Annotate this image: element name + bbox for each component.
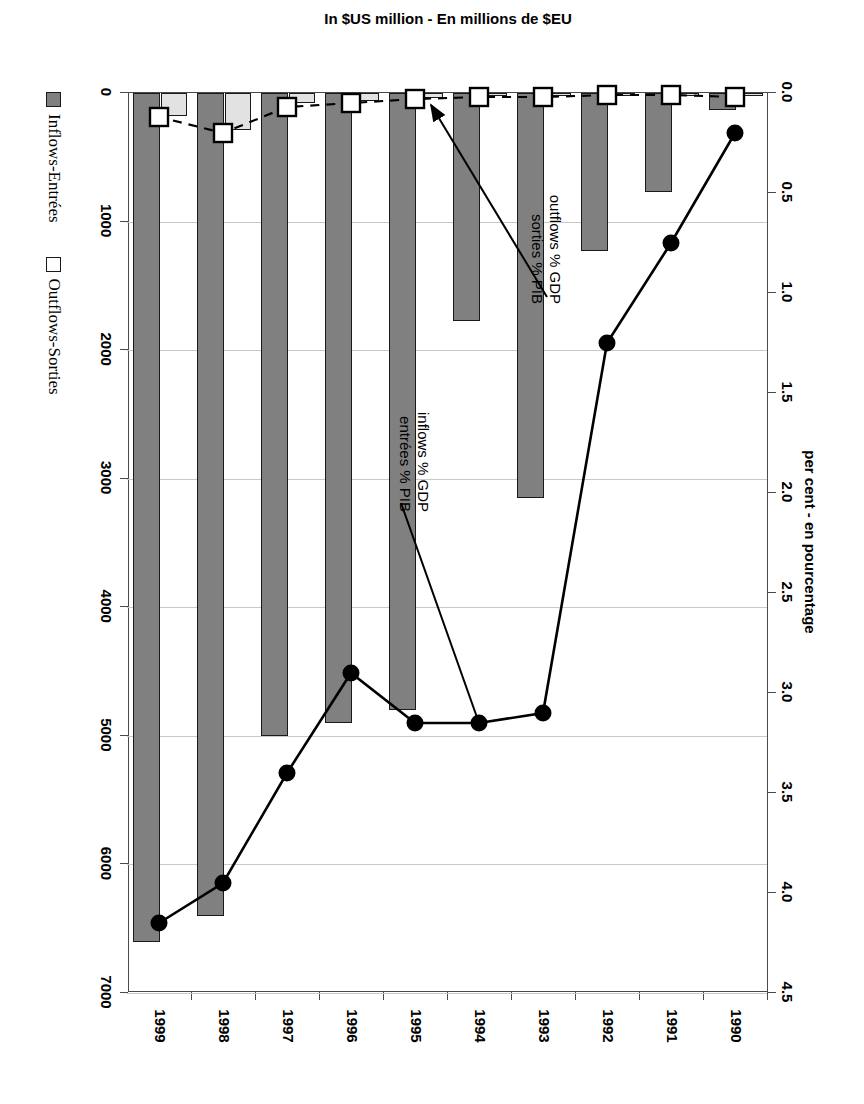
inflows-percent-marker — [215, 875, 232, 892]
outflows-annotation-line1: outflows % GDP — [546, 195, 564, 304]
inflows-annotation-line1: inflows % GDP — [414, 412, 432, 512]
y-axis-tick-label: 1000 — [98, 194, 115, 248]
y-axis-tick-label: 5000 — [98, 708, 115, 762]
secondary-axis-tick-label: 0.0 — [779, 82, 796, 103]
y-axis-tick-label: 4000 — [98, 579, 115, 633]
secondary-axis-tick-mark — [768, 392, 776, 393]
legend-swatch-outflows-icon — [47, 257, 62, 272]
secondary-axis-tick-mark — [768, 892, 776, 893]
outflows-percent-marker — [342, 94, 360, 112]
chart-figure: In $US million - En millions de $EU per … — [0, 0, 864, 1104]
inflows-percent-marker — [663, 235, 680, 252]
outflows-percent-line — [159, 95, 735, 133]
inflows-percent-marker — [599, 335, 616, 352]
inflows-annotation-leader — [401, 503, 479, 723]
inflows-percent-marker — [151, 915, 168, 932]
secondary-axis-tick-mark — [768, 692, 776, 693]
outflows-percent-marker — [662, 86, 680, 104]
legend-label-outflows: Outflows-Sorties — [44, 279, 64, 395]
inflows-percent-line — [159, 133, 735, 923]
legend-label-inflows: Inflows-Entrées — [44, 114, 64, 223]
secondary-axis-tick-mark — [768, 292, 776, 293]
category-tick-label: 1999 — [152, 1009, 169, 1042]
secondary-axis-tick-label: 2.0 — [779, 482, 796, 503]
y-axis-tick-label: 3000 — [98, 451, 115, 505]
outflows-percent-marker — [726, 88, 744, 106]
gridline — [127, 993, 767, 994]
secondary-axis-tick-mark — [768, 192, 776, 193]
category-tick-label: 1996 — [344, 1009, 361, 1042]
secondary-axis-tick-label: 3.0 — [779, 682, 796, 703]
secondary-axis-tick-label: 4.0 — [779, 882, 796, 903]
secondary-axis-tick-label: 2.5 — [779, 582, 796, 603]
secondary-axis-tick-mark — [768, 92, 776, 93]
outflows-percent-marker — [470, 88, 488, 106]
category-tick-label: 1998 — [216, 1009, 233, 1042]
secondary-axis-tick-mark — [768, 792, 776, 793]
category-tick-label: 1990 — [728, 1009, 745, 1042]
category-tick-label: 1992 — [600, 1009, 617, 1042]
plot-area — [128, 92, 768, 992]
inflows-percent-marker — [279, 765, 296, 782]
legend-swatch-inflows-icon — [47, 92, 62, 107]
legend-item-inflows: Inflows-Entrées — [44, 92, 64, 223]
secondary-axis-tick-mark — [768, 992, 776, 993]
secondary-axis-tick-label: 1.0 — [779, 282, 796, 303]
legend-item-outflows: Outflows-Sorties — [44, 257, 64, 395]
outflows-percent-marker — [150, 108, 168, 126]
outflows-percent-marker — [214, 124, 232, 142]
inflows-percent-marker — [407, 715, 424, 732]
outflows-annotation-line2: sorties % PIB — [528, 195, 546, 304]
secondary-axis-tick-mark — [768, 492, 776, 493]
outflows-percent-marker — [278, 98, 296, 116]
y-axis-title: In $US million - En millions de $EU — [324, 10, 572, 27]
category-tick-label: 1995 — [408, 1009, 425, 1042]
outflows-percent-marker — [406, 90, 424, 108]
inflows-annotation-line2: entrées % PIB — [396, 412, 414, 512]
y-axis-tick-label: 6000 — [98, 836, 115, 890]
category-tick-label: 1991 — [664, 1009, 681, 1042]
secondary-axis-tick-label: 3.5 — [779, 782, 796, 803]
inflows-annotation: inflows % GDP entrées % PIB — [396, 412, 433, 512]
inflows-percent-marker — [535, 705, 552, 722]
secondary-axis-tick-label: 4.5 — [779, 982, 796, 1003]
chart-legend: Inflows-Entrées Outflows-Sorties — [44, 92, 64, 395]
outflows-annotation: outflows % GDP sorties % PIB — [528, 195, 565, 304]
y-axis-tick-label: 7000 — [98, 965, 115, 1019]
line-series-layer — [127, 93, 767, 993]
secondary-axis-title: per cent - en pourcentage — [802, 450, 819, 633]
inflows-percent-marker — [343, 665, 360, 682]
secondary-axis-tick-label: 0.5 — [779, 182, 796, 203]
category-tick-label: 1997 — [280, 1009, 297, 1042]
y-axis-tick-label: 0 — [98, 65, 115, 119]
outflows-percent-marker — [534, 88, 552, 106]
inflows-percent-marker — [727, 125, 744, 142]
category-tick-mark — [767, 992, 768, 1000]
outflows-percent-marker — [598, 86, 616, 104]
secondary-axis-tick-mark — [768, 592, 776, 593]
secondary-axis-tick-label: 1.5 — [779, 382, 796, 403]
category-tick-label: 1994 — [472, 1009, 489, 1042]
y-axis-tick-label: 2000 — [98, 322, 115, 376]
category-tick-label: 1993 — [536, 1009, 553, 1042]
